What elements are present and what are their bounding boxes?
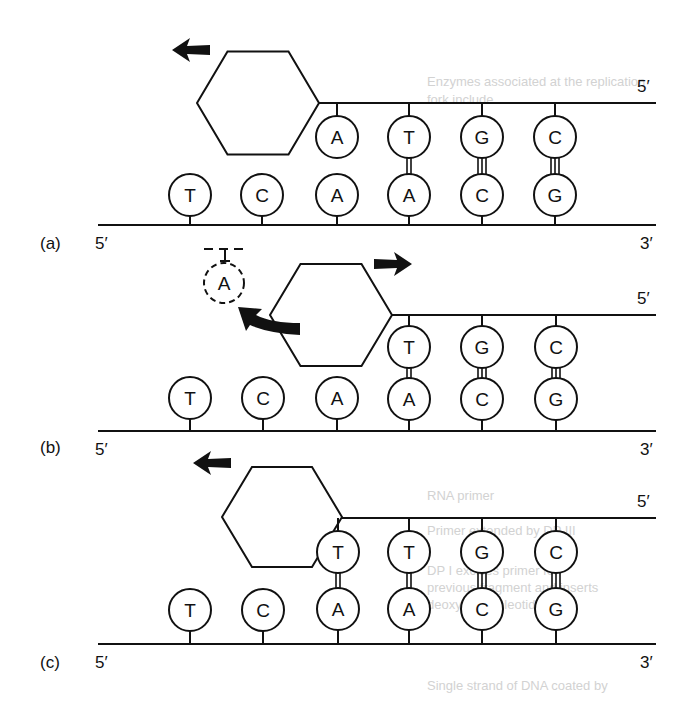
hydrogen-bonds	[407, 573, 411, 588]
nucleotide-C: C	[461, 378, 503, 431]
nucleotide-letter: G	[475, 542, 490, 563]
hydrogen-bonds	[407, 158, 411, 174]
arrow-left-icon	[193, 451, 231, 475]
nucleotide-T: T	[388, 315, 430, 368]
hydrogen-bonds	[552, 573, 560, 588]
strand-end-label-3prime: 3′	[640, 440, 653, 459]
arrow-shape	[374, 252, 412, 276]
nucleotide-T: T	[388, 518, 430, 573]
nucleotide-T: T	[388, 103, 430, 158]
nucleotide-C: C	[461, 174, 503, 225]
dna-proofreading-diagram: 5′3′(a)TCAACG5′ATGC5′3′(b)TCAACG5′TGCA5′…	[0, 0, 696, 708]
nucleotide-G: G	[461, 518, 503, 573]
nucleotide-letter: A	[331, 185, 344, 206]
nucleotide-letter: T	[184, 185, 196, 206]
nucleotide-letter: G	[548, 185, 563, 206]
nucleotide-T: T	[169, 174, 211, 225]
arrow-right-icon	[374, 252, 412, 276]
nucleotide-letter: A	[218, 273, 231, 294]
nucleotide-letter: A	[403, 599, 416, 620]
nucleotide-letter: T	[403, 337, 415, 358]
nucleotide-letter: C	[256, 600, 270, 621]
panel-c: 5′3′(c)TCAACG5′TTGC	[40, 451, 656, 672]
strand-end-label-3prime: 3′	[640, 234, 653, 253]
hydrogen-bonds	[478, 158, 486, 174]
nucleotide-A: A	[316, 377, 358, 431]
dna-polymerase-hexagon	[270, 264, 392, 366]
hydrogen-bonds	[551, 158, 559, 174]
strand-end-label-5prime: 5′	[637, 77, 650, 96]
nucleotide-T: T	[169, 377, 211, 431]
strand-end-label-3prime: 3′	[640, 653, 653, 672]
nucleotide-A: A	[316, 174, 358, 225]
panel-label: (c)	[40, 653, 60, 672]
nucleotide-G: G	[534, 174, 576, 225]
nucleotide-letter: G	[549, 599, 564, 620]
strand-end-label-5prime: 5′	[95, 440, 108, 459]
nucleotide-letter: C	[549, 542, 563, 563]
strand-end-label-5prime: 5′	[95, 234, 108, 253]
arrow-shape	[193, 451, 231, 475]
nucleotide-letter: T	[403, 542, 415, 563]
nucleotide-C: C	[534, 103, 576, 158]
nucleotide-G: G	[461, 103, 503, 158]
nucleotide-letter: C	[475, 599, 489, 620]
nucleotide-G: G	[461, 315, 503, 368]
hydrogen-bonds	[478, 368, 486, 378]
nucleotide-letter: A	[331, 388, 344, 409]
nucleotide-C: C	[535, 518, 577, 573]
dna-polymerase-hexagon	[197, 52, 319, 155]
arrow-left-icon	[172, 38, 210, 62]
hydrogen-bonds	[336, 573, 340, 588]
nucleotide-letter: G	[475, 127, 490, 148]
nucleotide-letter: T	[184, 388, 196, 409]
nucleotide-letter: C	[255, 185, 269, 206]
hydrogen-bonds	[552, 368, 560, 378]
panel-a: 5′3′(a)TCAACG5′ATGC	[40, 38, 656, 253]
nucleotide-letter: T	[403, 127, 415, 148]
strand-end-label-5prime: 5′	[637, 289, 650, 308]
nucleotide-letter: T	[332, 542, 344, 563]
panel-label: (b)	[40, 438, 61, 457]
panel-label: (a)	[40, 234, 61, 253]
nucleotide-A: A	[388, 588, 430, 644]
nucleotide-G: G	[535, 588, 577, 644]
nucleotide-letter: A	[332, 599, 345, 620]
strand-end-label-5prime: 5′	[95, 653, 108, 672]
nucleotide-letter: A	[403, 185, 416, 206]
nucleotide-T: T	[169, 589, 211, 644]
nucleotide-C: C	[242, 589, 284, 644]
nucleotide-letter: G	[475, 337, 490, 358]
nucleotide-A: A	[316, 103, 358, 158]
strand-end-label-5prime: 5′	[637, 492, 650, 511]
nucleotide-C: C	[535, 315, 577, 368]
nucleotide-G: G	[535, 378, 577, 431]
nucleotide-A: A	[388, 174, 430, 225]
nucleotide-letter: C	[548, 127, 562, 148]
nucleotide-letter: C	[475, 185, 489, 206]
nucleotide-letter: A	[403, 389, 416, 410]
nucleotide-A: A	[317, 588, 359, 644]
excised-nucleotide: A	[204, 249, 246, 303]
nucleotide-C: C	[461, 588, 503, 644]
nucleotide-C: C	[242, 377, 284, 431]
panel-b: 5′3′(b)TCAACG5′TGCA	[40, 249, 656, 459]
nucleotide-letter: G	[549, 389, 564, 410]
nucleotide-letter: A	[331, 127, 344, 148]
nucleotide-letter: T	[184, 600, 196, 621]
nucleotide-letter: C	[256, 388, 270, 409]
nucleotide-A: A	[388, 378, 430, 431]
nucleotide-letter: C	[549, 337, 563, 358]
hydrogen-bonds	[407, 368, 411, 378]
arrow-shape	[172, 38, 210, 62]
nucleotide-C: C	[241, 174, 283, 225]
nucleotide-letter: C	[475, 389, 489, 410]
hydrogen-bonds	[478, 573, 486, 588]
